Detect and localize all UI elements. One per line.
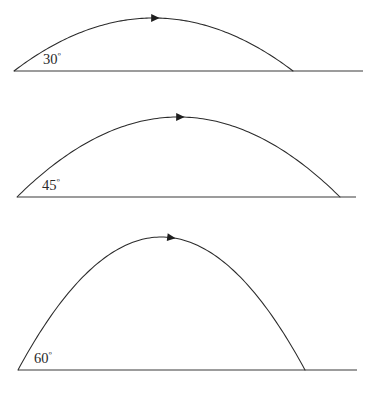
figure-canvas: 30º 45º 60º bbox=[0, 0, 372, 406]
degree-symbol-icon-60: º bbox=[49, 350, 52, 360]
projectile-figure: 30º 45º 60º bbox=[0, 0, 372, 406]
degree-symbol-icon-30: º bbox=[58, 51, 61, 61]
degree-symbol-icon-45: º bbox=[57, 177, 60, 187]
angle-label-60: 60º bbox=[34, 350, 52, 366]
trajectory-arc-45 bbox=[17, 117, 340, 197]
angle-label-45: 45º bbox=[42, 177, 60, 193]
direction-arrow-icon-30 bbox=[151, 14, 160, 22]
trajectory-group-45: 45º bbox=[17, 113, 356, 197]
angle-label-60-value: 60 bbox=[34, 350, 49, 366]
trajectory-group-30: 30º bbox=[14, 14, 363, 71]
trajectory-arc-60 bbox=[18, 237, 305, 370]
direction-arrow-icon-60 bbox=[167, 233, 176, 241]
angle-label-30: 30º bbox=[43, 51, 61, 67]
direction-arrow-icon-45 bbox=[176, 113, 185, 121]
trajectory-group-60: 60º bbox=[18, 233, 357, 370]
angle-label-45-value: 45 bbox=[42, 177, 57, 193]
angle-label-30-value: 30 bbox=[43, 51, 58, 67]
